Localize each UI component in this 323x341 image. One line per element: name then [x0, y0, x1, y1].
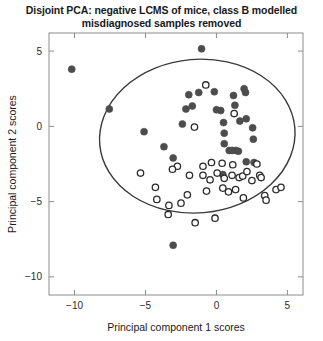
data-point-filled	[195, 89, 202, 96]
data-point-filled	[170, 154, 177, 161]
data-point-open	[178, 200, 184, 206]
y-tick-label: −10	[25, 271, 42, 282]
data-point-filled	[243, 158, 250, 165]
data-point-filled	[170, 242, 177, 249]
x-tick-label: 5	[285, 300, 291, 311]
data-point-filled	[231, 102, 238, 109]
data-point-filled	[242, 89, 249, 96]
data-point-open	[232, 186, 238, 192]
y-tick-label: −5	[31, 196, 43, 207]
data-point-filled	[179, 121, 186, 128]
data-point-open	[229, 172, 235, 178]
data-point-open	[166, 202, 172, 208]
data-point-open	[186, 172, 192, 178]
data-point-open	[249, 177, 255, 183]
x-tick-label: 0	[214, 300, 220, 311]
data-point-open	[244, 168, 250, 174]
data-point-open	[278, 184, 284, 190]
data-point-open	[231, 110, 237, 116]
data-point-filled	[198, 45, 205, 52]
data-point-open	[169, 166, 175, 172]
data-point-filled	[220, 119, 227, 126]
data-point-open	[212, 215, 218, 221]
data-point-open	[137, 170, 143, 176]
data-point-open	[258, 174, 264, 180]
data-point-open	[263, 197, 269, 203]
data-point-open	[191, 124, 197, 130]
data-point-open	[221, 175, 227, 181]
data-point-open	[184, 192, 190, 198]
data-point-filled	[236, 118, 243, 125]
data-point-filled	[185, 91, 192, 98]
data-point-filled	[235, 148, 242, 155]
figure-container: Disjoint PCA: negative LCMS of mice, cla…	[0, 0, 323, 341]
data-point-open	[240, 195, 246, 201]
data-point-open	[152, 184, 158, 190]
y-tick-label: 5	[36, 46, 42, 57]
data-point-filled	[243, 115, 250, 122]
data-point-open	[214, 170, 220, 176]
data-point-filled	[68, 66, 75, 73]
data-point-open	[225, 189, 231, 195]
data-point-filled	[106, 106, 113, 113]
data-point-filled	[189, 103, 196, 110]
data-point-filled	[182, 106, 189, 113]
scatter-plot: −10−50550−5−10 Principal component 1 sco…	[0, 0, 323, 341]
data-point-open	[208, 159, 214, 165]
y-tick-label: 0	[36, 121, 42, 132]
x-axis-title: Principal component 1 scores	[107, 321, 245, 333]
data-point-open	[200, 163, 206, 169]
data-point-filled	[221, 130, 228, 137]
data-point-open	[219, 160, 225, 166]
data-point-filled	[160, 143, 167, 150]
data-point-filled	[211, 88, 218, 95]
data-point-filled	[221, 140, 228, 147]
data-point-open	[254, 161, 260, 167]
data-point-filled	[250, 136, 257, 143]
y-axis-title: Principal component 2 scores	[6, 95, 18, 233]
data-point-filled	[230, 92, 237, 99]
x-tick-label: −10	[66, 300, 83, 311]
data-point-filled	[217, 107, 224, 114]
data-point-open	[203, 188, 209, 194]
data-point-open	[203, 82, 209, 88]
data-point-open	[192, 220, 198, 226]
data-point-open	[207, 177, 213, 183]
data-point-filled	[141, 128, 148, 135]
x-tick-label: −5	[140, 300, 152, 311]
data-point-open	[154, 196, 160, 202]
data-point-open	[200, 172, 206, 178]
data-point-open	[165, 211, 171, 217]
data-point-filled	[249, 124, 256, 131]
data-point-open	[230, 162, 236, 168]
